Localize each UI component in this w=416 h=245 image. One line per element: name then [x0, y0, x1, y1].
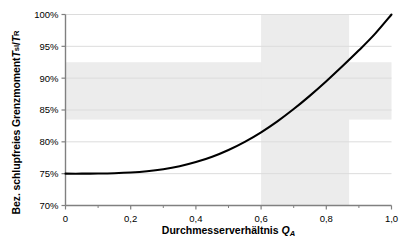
- y-tick-label: 70%: [39, 200, 59, 211]
- y-tick-label: 85%: [39, 104, 59, 115]
- chart-container: Bez. schlupfreies Grenzmoment Tsl / TR D…: [0, 0, 416, 245]
- x-tick-label: 0,6: [254, 213, 267, 224]
- y-tick-label: 100%: [34, 9, 59, 20]
- y-tick-label: 95%: [39, 41, 59, 52]
- plot-area: 70%75%80%85%90%95%100%00,20,40,60,81,0: [0, 0, 416, 245]
- y-tick-label: 90%: [39, 73, 59, 84]
- x-tick-label: 0,2: [124, 213, 137, 224]
- x-tick-label: 0: [63, 213, 68, 224]
- x-tick-label: 0,4: [189, 213, 202, 224]
- x-tick-label: 0,8: [320, 213, 333, 224]
- y-tick-label: 80%: [39, 136, 59, 147]
- x-tick-label: 1,0: [385, 213, 398, 224]
- y-tick-label: 75%: [39, 168, 59, 179]
